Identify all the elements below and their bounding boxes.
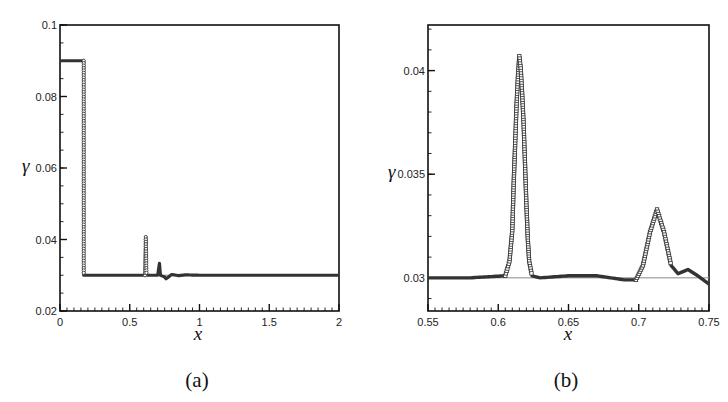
panel-a-ylabel: γ [22, 155, 30, 176]
y-tick-label: 0.035 [397, 168, 425, 180]
panel-b-ticks: 0.550.60.650.70.750.030.0350.04 [397, 29, 719, 328]
panel-b-ylabel: γ [388, 161, 396, 182]
panel-a-xlabel: x [193, 323, 203, 344]
exact-solution-line [60, 61, 339, 276]
figure-canvas: 00.511.520.020.040.060.080.1 γ x (a) 0.5… [0, 0, 728, 402]
panel-a-frame [60, 25, 339, 311]
panel-a-ticks: 00.511.520.020.040.060.080.1 [36, 19, 342, 328]
x-tick-label: 0.7 [631, 316, 646, 328]
y-tick-label: 0.06 [36, 162, 57, 174]
panel-a-data [60, 59, 339, 279]
y-tick-label: 0.04 [36, 234, 57, 246]
y-tick-label: 0.04 [404, 65, 425, 77]
panel-b-xlabel: x [563, 323, 573, 344]
x-tick-label: 0.75 [698, 316, 719, 328]
y-tick-label: 0.08 [36, 91, 57, 103]
panel-b-plot: 0.550.60.650.70.750.030.0350.04 γ x (b) [388, 25, 720, 392]
y-tick-label: 0.02 [36, 305, 57, 317]
panel-a-caption: (a) [185, 368, 208, 392]
x-tick-label: 1.5 [262, 316, 277, 328]
x-tick-label: 0 [57, 316, 63, 328]
panel-b-caption: (b) [554, 368, 579, 392]
panel-b-data [428, 54, 709, 284]
x-tick-label: 0.55 [417, 316, 438, 328]
y-tick-label: 0.03 [404, 272, 425, 284]
panel-b-frame [428, 25, 709, 311]
x-tick-label: 2 [336, 316, 342, 328]
x-tick-label: 0.6 [491, 316, 506, 328]
numerical-solution-trace [60, 61, 339, 279]
panel-a-plot: 00.511.520.020.040.060.080.1 γ x (a) [22, 19, 342, 392]
y-tick-label: 0.1 [42, 19, 57, 31]
x-tick-label: 0.5 [122, 316, 137, 328]
